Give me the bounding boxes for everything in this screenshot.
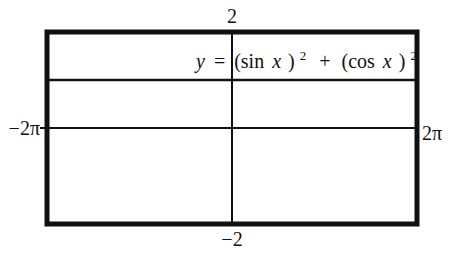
y-tick-label-min: −2 (221, 228, 242, 250)
equation-term2-var: x (382, 50, 392, 72)
y-tick-label-max: 2 (227, 5, 237, 27)
x-tick-label-max: 2π (422, 122, 442, 144)
equation-lhs: y (194, 50, 205, 73)
equation-equals: = (214, 50, 225, 72)
equation-exp2: 2 (410, 48, 417, 63)
x-tick-label-min: −2π (9, 117, 40, 139)
equation-term1-open: (sin (234, 50, 264, 73)
equation-exp1: 2 (300, 48, 307, 63)
equation-plus: + (319, 50, 330, 72)
equation-annotation: y = (sin x ) 2 + (cos x ) 2 (194, 42, 417, 73)
equation-term2-open: (cos (342, 50, 376, 73)
function-graph: 2 −2 −2π 2π y = (sin x ) 2 + (cos x ) 2 (0, 0, 451, 258)
equation-term2-close: ) (399, 50, 406, 73)
equation-term1-var: x (271, 50, 281, 72)
equation-term1-close: ) (288, 50, 295, 73)
